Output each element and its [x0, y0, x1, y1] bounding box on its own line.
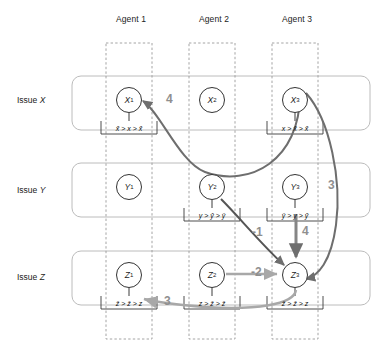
edge-weight-y2-z3: -1 — [252, 225, 263, 239]
preference-x3: x > x̂ > x̌ — [267, 122, 323, 134]
node-x2[interactable]: X2 — [199, 87, 225, 113]
edge-weight-y3-z3: 4 — [302, 224, 309, 238]
edge-weight-x3-x1: 4 — [166, 92, 173, 106]
preference-y2: y > y̌ > ŷ — [184, 209, 240, 221]
preference-z3: ž > ẑ > z — [267, 297, 323, 309]
preference-z2: z > ž > ẑ — [184, 297, 240, 309]
preference-z1: ẑ > ž > z — [101, 297, 157, 309]
node-z3-index: 3 — [296, 272, 299, 278]
edge-weight-z3-z1: 3 — [164, 294, 171, 308]
node-y1-index: 1 — [130, 184, 133, 190]
node-x1-index: 1 — [130, 97, 133, 103]
node-x3-index: 3 — [296, 97, 299, 103]
node-z1[interactable]: Z1 — [116, 262, 142, 288]
node-z3[interactable]: Z3 — [282, 262, 308, 288]
node-x2-index: 2 — [213, 97, 216, 103]
node-z2-index: 2 — [213, 272, 216, 278]
diagram-canvas: Agent 1 Agent 2 Agent 3 Issue X Issue Y … — [0, 0, 385, 355]
node-z1-index: 1 — [130, 272, 133, 278]
node-y1[interactable]: Y1 — [116, 174, 142, 200]
edge-weight-z2-z3: -2 — [251, 265, 262, 279]
node-x3[interactable]: X3 — [282, 87, 308, 113]
preference-y3: ŷ > y > y̌ — [267, 209, 323, 221]
edge-weight-x3-z3: 3 — [328, 178, 335, 192]
node-y3[interactable]: Y3 — [282, 174, 308, 200]
node-x1[interactable]: X1 — [116, 87, 142, 113]
node-y2[interactable]: Y2 — [199, 174, 225, 200]
node-y3-index: 3 — [296, 184, 299, 190]
preference-x1: x̌ > x > x̂ — [101, 122, 157, 134]
node-y2-index: 2 — [213, 184, 216, 190]
node-z2[interactable]: Z2 — [199, 262, 225, 288]
